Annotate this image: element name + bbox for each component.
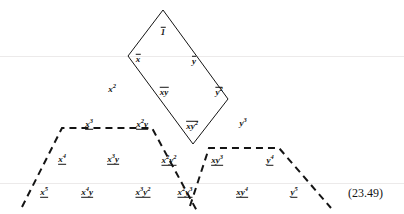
monomial-m-y3: y3: [239, 119, 246, 128]
monomial-m-x5: x5: [40, 188, 48, 198]
monomial-lattice-figure: 1xyx2xyy2x3x2yxy2y3x4x3yx2y2xy3y4x5x4yx3…: [0, 0, 404, 214]
diagram-overlay: [0, 0, 404, 214]
monomial-m-y: y: [192, 56, 196, 66]
monomial-m-xy2: xy2: [186, 121, 198, 131]
monomial-m-y5: y5: [290, 188, 297, 198]
left-dashed-trapezoid: [22, 128, 197, 211]
monomial-m-x2y2: x2y2: [162, 156, 177, 166]
monomial-m-1: 1: [161, 27, 166, 37]
monomial-m-x2y3: x2y3: [178, 188, 193, 198]
monomial-m-x4y: x4y: [81, 188, 93, 198]
monomial-m-x2y: x2y: [136, 120, 148, 130]
monomial-m-x3y: x3y: [107, 155, 119, 165]
monomial-m-x3: x3: [85, 120, 93, 130]
monomial-m-xy4: xy4: [236, 188, 248, 198]
monomial-m-x2: x2: [108, 85, 116, 94]
faint-rule-upper: [0, 56, 404, 57]
monomial-m-x4: x4: [58, 155, 66, 165]
monomial-m-xy: xy: [160, 87, 169, 97]
faint-rule-lower: [0, 183, 404, 184]
monomial-m-xy3: xy3: [211, 156, 223, 166]
monomial-m-y4: y4: [266, 156, 273, 166]
monomial-m-y2: y2: [215, 87, 222, 97]
monomial-m-x3y2: x3y2: [136, 188, 151, 198]
monomial-m-x: x: [136, 54, 141, 64]
equation-number: (23.49): [348, 186, 383, 201]
